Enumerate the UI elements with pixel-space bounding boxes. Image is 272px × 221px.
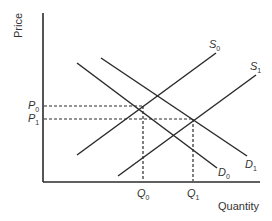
x-axis-label: Quantity	[218, 200, 259, 212]
label-p1: P1	[28, 112, 39, 126]
y-axis-label: Price	[12, 13, 24, 38]
demand-curve-d0	[77, 63, 217, 168]
label-s1: S1	[250, 60, 261, 74]
label-q0: Q0	[137, 187, 150, 201]
label-q1: Q1	[187, 187, 200, 201]
label-d0: D0	[218, 166, 230, 180]
supply-demand-diagram: Price Quantity S0 S1 D0 D1 P0 P1 Q0 Q1	[0, 0, 272, 221]
label-s0: S0	[209, 38, 220, 52]
supply-curve-s1	[118, 75, 256, 176]
demand-curve-d1	[101, 58, 247, 156]
label-d1: D1	[245, 158, 257, 172]
supply-curve-s0	[77, 53, 216, 155]
label-p0: P0	[28, 99, 39, 113]
